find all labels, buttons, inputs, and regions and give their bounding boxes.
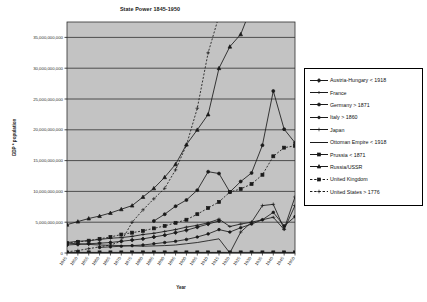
x-axis-tick-label: 1935 xyxy=(254,255,264,266)
legend-item-label: France xyxy=(329,90,347,96)
legend-marker xyxy=(317,78,321,82)
legend-marker-icon xyxy=(309,113,329,122)
series-marker xyxy=(250,171,253,174)
legend-marker-icon xyxy=(309,187,329,196)
legend-marker xyxy=(318,153,321,156)
series-marker xyxy=(294,141,297,144)
series-marker xyxy=(109,235,112,238)
legend-item[interactable]: Germany > 1871 xyxy=(309,99,419,111)
legend-item-label: United States > 1776 xyxy=(329,189,380,195)
x-axis-tick-label: 1930 xyxy=(243,255,253,266)
legend-item-label: Germany > 1871 xyxy=(329,102,370,108)
x-axis-tick-label: 1900 xyxy=(178,255,188,266)
legend-marker-icon xyxy=(309,150,329,159)
legend-marker-icon xyxy=(309,175,329,184)
series-marker xyxy=(207,170,210,173)
series-marker xyxy=(152,227,155,230)
legend-marker-icon xyxy=(309,88,329,97)
y-axis-tick-label: 30,000,000,000 xyxy=(33,66,63,71)
legend-item-label: Russia/USSR xyxy=(329,164,362,170)
series-marker xyxy=(218,200,221,203)
legend-item[interactable]: Russia/USSR xyxy=(309,161,419,173)
x-axis-tick-label: 1925 xyxy=(232,255,242,266)
x-axis-tick-label: 1950 xyxy=(286,255,296,266)
y-axis-tick-label: 0 xyxy=(61,251,64,256)
legend-item-label: Austria-Hungary < 1918 xyxy=(329,77,386,83)
series-marker xyxy=(272,155,275,158)
legend-marker xyxy=(317,165,321,168)
y-axis-tick-label: 35,000,000,000 xyxy=(33,35,63,40)
x-axis-tick-label: 1890 xyxy=(156,255,166,266)
series-marker xyxy=(66,242,69,245)
series-marker xyxy=(196,213,199,216)
series-marker xyxy=(174,240,177,243)
x-axis-tick-label: 1855 xyxy=(80,255,90,266)
x-axis-tick-label: 1860 xyxy=(91,255,101,266)
series-marker xyxy=(250,5,254,8)
x-axis-tick-label: 1910 xyxy=(199,255,209,266)
legend-marker xyxy=(318,178,321,181)
series-marker xyxy=(283,128,286,131)
legend-marker xyxy=(318,103,321,106)
series-marker xyxy=(250,183,253,186)
series-marker xyxy=(218,228,221,231)
series-marker xyxy=(261,144,264,147)
chart-legend: Austria-Hungary < 1918FranceGermany > 18… xyxy=(304,68,423,206)
x-axis-title: Year xyxy=(176,285,186,290)
series-marker xyxy=(76,240,79,243)
series-marker xyxy=(163,241,166,244)
x-axis-tick-label: 1850 xyxy=(69,255,79,266)
series-marker xyxy=(153,242,156,245)
y-axis-tick-label: 20,000,000,000 xyxy=(33,127,63,132)
series-marker xyxy=(174,221,177,224)
legend-marker-icon xyxy=(309,138,329,147)
series-marker xyxy=(174,205,177,208)
series-marker xyxy=(294,144,297,147)
x-axis-tick-label: 1940 xyxy=(265,255,275,266)
series-marker xyxy=(239,180,242,183)
legend-marker-icon xyxy=(309,125,329,134)
series-marker xyxy=(185,238,188,241)
series-marker xyxy=(142,229,145,232)
legend-item[interactable]: France xyxy=(309,86,419,98)
x-axis-tick-label: 1885 xyxy=(145,255,155,266)
series-marker xyxy=(207,207,210,210)
x-axis-tick-label: 1875 xyxy=(123,255,133,266)
legend-item[interactable]: Italy > 1860 xyxy=(309,111,419,123)
legend-item[interactable]: Prussia < 1871 xyxy=(309,148,419,160)
x-axis-tick-label: 1920 xyxy=(221,255,231,266)
series-marker xyxy=(87,239,90,242)
legend-item-label: Ottoman Empire < 1918 xyxy=(329,139,386,145)
series-marker xyxy=(239,226,242,229)
y-axis-tick-label: 15,000,000,000 xyxy=(33,158,63,163)
series-marker xyxy=(196,236,199,239)
series-marker xyxy=(261,218,264,221)
y-axis-tick-label: 5,000,000,000 xyxy=(36,220,64,225)
x-axis-tick-label: 1870 xyxy=(113,255,123,266)
series-marker xyxy=(196,189,199,192)
chart-screenshot: State Power 1845-1950 05,000,000,00010,0… xyxy=(0,0,427,302)
series-marker xyxy=(218,172,221,175)
legend-marker-icon xyxy=(309,100,329,109)
series-marker xyxy=(98,237,101,240)
x-axis-tick-label: 1895 xyxy=(167,255,177,266)
legend-item[interactable]: Ottoman Empire < 1918 xyxy=(309,136,419,148)
legend-marker-icon xyxy=(309,76,329,85)
series-marker xyxy=(261,173,264,176)
series-marker xyxy=(163,224,166,227)
legend-item[interactable]: United Kingdom xyxy=(309,173,419,185)
series-marker xyxy=(228,191,231,194)
legend-item[interactable]: Austria-Hungary < 1918 xyxy=(309,74,419,86)
series-marker xyxy=(163,213,166,216)
series-marker xyxy=(229,231,232,234)
legend-item[interactable]: United States > 1776 xyxy=(309,186,419,198)
legend-item-label: United Kingdom xyxy=(329,176,368,182)
series-marker xyxy=(294,215,297,218)
series-marker xyxy=(185,199,188,202)
series-marker xyxy=(131,231,134,234)
legend-marker xyxy=(318,116,321,119)
x-axis-tick-label: 1905 xyxy=(189,255,199,266)
x-axis-tick-label: 1880 xyxy=(134,255,144,266)
x-axis-tick-label: 1945 xyxy=(275,255,285,266)
legend-item[interactable]: Japan xyxy=(309,124,419,136)
